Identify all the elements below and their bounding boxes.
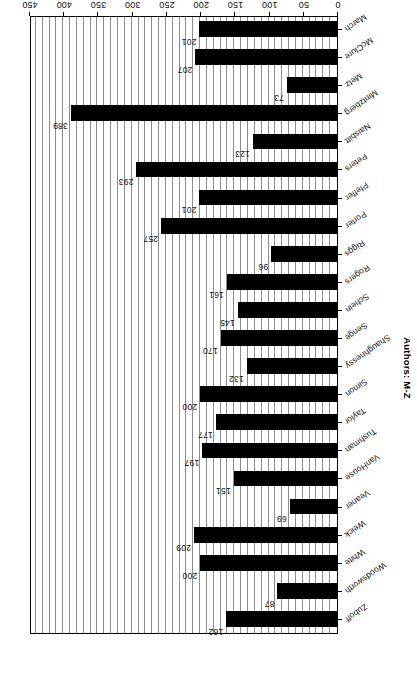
bar — [253, 134, 337, 150]
category-axis-tick-label: Taylor — [343, 406, 368, 428]
category-axis-tick — [338, 85, 342, 86]
value-axis-tick — [234, 12, 235, 16]
bar — [238, 302, 337, 318]
bar — [199, 190, 337, 206]
category-axis-tick — [338, 507, 342, 508]
bar-value-label: 200 — [182, 403, 197, 412]
bar-value-label: 132 — [229, 375, 244, 384]
category-axis-tick — [338, 226, 342, 227]
value-axis-tick-label: 400 — [56, 0, 72, 10]
bar — [194, 527, 337, 543]
value-axis-tick — [269, 12, 270, 16]
bar — [226, 611, 337, 627]
category-axis-tick-label: Pfeffer — [343, 180, 370, 203]
bar-value-label: 197 — [184, 459, 199, 468]
category-axis-tick — [338, 422, 342, 423]
value-axis-tick-label: 250 — [159, 0, 175, 10]
bar — [290, 499, 337, 515]
category-axis-tick — [338, 394, 342, 395]
bar-value-label: 257 — [143, 234, 158, 243]
value-axis-tick-label: 100 — [262, 0, 278, 10]
value-axis: 050100150200250300350400450 — [30, 0, 338, 16]
category-axis-tick — [338, 57, 342, 58]
category-axis-tick-label: McClure — [343, 35, 375, 62]
plot-area: 2012077338912329320125796161145170132200… — [30, 16, 338, 634]
category-axis-tick-label: Tushman — [343, 427, 378, 456]
category-axis-tick-label: Senge — [343, 321, 369, 344]
bar — [247, 358, 337, 374]
bar — [216, 414, 337, 430]
bar-value-label: 87 — [265, 599, 275, 608]
category-axis-tick — [338, 479, 342, 480]
bar-value-label: 151 — [216, 487, 231, 496]
value-axis-tick — [132, 12, 133, 16]
category-axis-tick-label: Schein — [343, 292, 371, 315]
value-axis-tick-label: 450 — [22, 0, 38, 10]
value-axis-tick — [63, 12, 64, 16]
bar-value-label: 170 — [203, 346, 218, 355]
value-axis-tick-label: 150 — [228, 0, 244, 10]
category-axis-tick-label: Peters — [343, 152, 369, 175]
category-axis-tick — [338, 29, 342, 30]
category-axis-tick — [338, 113, 342, 114]
category-axis-tick-label: Simon — [343, 377, 369, 399]
bar-value-label: 177 — [198, 431, 213, 440]
bar-value-label: 201 — [182, 206, 197, 215]
bar — [199, 21, 337, 37]
value-axis-tick — [166, 12, 167, 16]
bar-value-label: 200 — [182, 571, 197, 580]
category-axis-tick — [338, 450, 342, 451]
bar — [71, 105, 337, 121]
value-axis-tick — [200, 12, 201, 16]
category-axis-tick — [338, 282, 342, 283]
bar-value-label: 73 — [274, 94, 284, 103]
value-axis-tick-label: 300 — [125, 0, 141, 10]
bar-value-label: 389 — [53, 122, 68, 131]
category-axis-title: Authors: M-Z — [402, 337, 413, 399]
bar — [200, 386, 337, 402]
bar — [287, 77, 337, 93]
bar — [202, 443, 337, 459]
value-axis-tick — [29, 12, 30, 16]
bar — [200, 555, 337, 571]
category-axis-tick — [338, 254, 342, 255]
category-axis-tick-label: VanHouse — [343, 453, 381, 484]
value-axis-tick-label: 200 — [193, 0, 209, 10]
bar-value-label: 207 — [178, 66, 193, 75]
bar-value-label: 293 — [119, 178, 134, 187]
category-axis-tick-label: Riggs — [343, 238, 367, 259]
value-axis-tick-label: 350 — [91, 0, 107, 10]
category-axis-tick-label: Weick — [343, 518, 368, 540]
bar-value-label: 201 — [182, 37, 197, 46]
bar — [136, 162, 337, 178]
category-axis-tick-label: Naisbitt — [343, 122, 373, 147]
bar-value-label: 162 — [208, 627, 223, 636]
category-axis-tick — [338, 535, 342, 536]
bar — [234, 471, 337, 487]
value-axis-tick — [303, 12, 304, 16]
bar-value-label: 123 — [235, 150, 250, 159]
category-axis-tick-label: Zuboff — [343, 602, 369, 624]
chart-figure: 2012077338912329320125796161145170132200… — [0, 0, 417, 698]
category-axis-tick-label: Porter — [343, 209, 368, 231]
category-axis-tick-label: Mintzberg — [343, 88, 380, 118]
bar-value-label: 69 — [277, 515, 287, 524]
category-axis-tick — [338, 619, 342, 620]
bar — [271, 246, 337, 262]
bar-series: 2012077338912329320125796161145170132200… — [31, 17, 337, 633]
category-axis-tick-label: March — [343, 12, 368, 34]
value-axis-tick-label: 50 — [299, 0, 309, 10]
category-axis-tick-label: Rogers — [343, 263, 372, 287]
bar-value-label: 161 — [209, 290, 224, 299]
bar — [195, 49, 337, 65]
bar — [277, 583, 337, 599]
category-axis-tick — [338, 366, 342, 367]
category-axis-tick-label: White — [343, 547, 367, 568]
bar-value-label: 96 — [258, 262, 268, 271]
category-axis-tick — [338, 170, 342, 171]
bar-value-label: 145 — [220, 318, 235, 327]
category-axis-tick — [338, 591, 342, 592]
bar — [227, 274, 337, 290]
bar — [161, 218, 337, 234]
value-axis-tick — [97, 12, 98, 16]
